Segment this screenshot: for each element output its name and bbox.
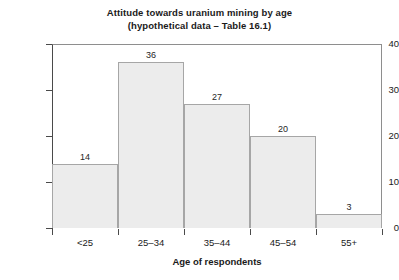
bar-25-34[interactable]: [118, 62, 184, 228]
x-tick-mark-4: [316, 229, 317, 235]
chart-title: Attitude towards uranium mining by age (…: [0, 7, 399, 32]
bar-45-54[interactable]: [250, 136, 316, 228]
chart-title-line1: Attitude towards uranium mining by age: [0, 7, 399, 20]
bar-value-label-35-44: 27: [184, 92, 250, 102]
x-axis-title: Age of respondents: [52, 256, 382, 267]
x-tick-mark-0: [52, 229, 53, 235]
bar-value-label-lt25: 14: [52, 152, 118, 162]
x-tick-label-35-44: 35–44: [184, 237, 250, 248]
bar-value-label-25-34: 36: [118, 50, 184, 60]
x-tick-label-lt25: <25: [52, 237, 118, 248]
x-tick-mark-2: [184, 229, 185, 235]
x-tick-mark-3: [250, 229, 251, 235]
bar-35-44[interactable]: [184, 104, 250, 228]
x-tick-label-55plus: 55+: [316, 237, 382, 248]
x-tick-mark-1: [118, 229, 119, 235]
bar-series: [52, 44, 382, 228]
chart-title-line2: (hypothetical data – Table 16.1): [0, 20, 399, 33]
bar-value-label-45-54: 20: [250, 124, 316, 134]
x-tick-label-45-54: 45–54: [250, 237, 316, 248]
chart-figure: Attitude towards uranium mining by age (…: [0, 0, 399, 280]
bar-lt25[interactable]: [52, 164, 118, 228]
bar-55plus[interactable]: [316, 214, 382, 228]
x-tick-label-25-34: 25–34: [118, 237, 184, 248]
x-tick-mark-5: [382, 229, 383, 235]
bar-value-label-55plus: 3: [316, 202, 382, 212]
